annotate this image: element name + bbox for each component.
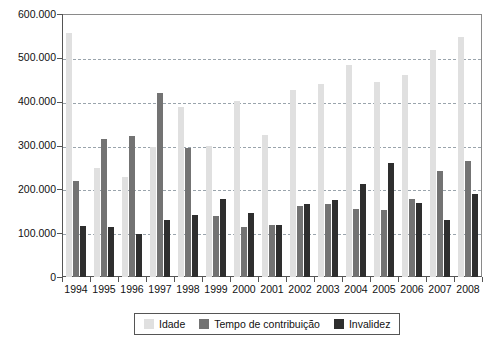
x-tick-mark [62, 277, 63, 282]
bar-group [258, 14, 286, 277]
bar-1994-idade [66, 33, 72, 277]
bar-1997-idade [150, 147, 156, 277]
bar-1995-invalidez [108, 227, 114, 277]
x-tick-label-1995: 1995 [90, 283, 118, 295]
bar-1995-idade [94, 168, 100, 277]
bar-2004-invalidez [360, 184, 366, 277]
x-tick-label-2003: 2003 [314, 283, 342, 295]
bar-group [90, 14, 118, 277]
bar-1999-idade [206, 146, 212, 277]
x-tick-label-1994: 1994 [62, 283, 90, 295]
bar-2003-idade [318, 84, 324, 277]
bar-2000-invalidez [248, 213, 254, 277]
bar-2006-tempo-de-contribui-o [409, 199, 415, 277]
bar-2005-tempo-de-contribui-o [381, 210, 387, 277]
x-tick-mark [342, 277, 343, 282]
legend-label: Tempo de contribuição [214, 319, 320, 330]
bar-group [174, 14, 202, 277]
x-tick-mark [90, 277, 91, 282]
bar-2006-idade [402, 75, 408, 277]
x-tick-mark [454, 277, 455, 282]
bar-2002-idade [290, 90, 296, 277]
legend-swatch-icon [144, 319, 154, 329]
legend-item: Invalidez [334, 319, 390, 330]
bar-2007-idade [430, 50, 436, 277]
x-tick-mark [314, 277, 315, 282]
x-tick-label-2001: 2001 [258, 283, 286, 295]
x-tick-mark [286, 277, 287, 282]
x-tick-mark [174, 277, 175, 282]
bar-1996-idade [122, 177, 128, 277]
bar-1995-tempo-de-contribui-o [101, 139, 107, 278]
legend-label: Idade [159, 319, 185, 330]
x-tick-mark [202, 277, 203, 282]
bar-group [146, 14, 174, 277]
y-tick-label: 100.000 [0, 228, 56, 239]
bar-2002-tempo-de-contribui-o [297, 206, 303, 277]
bar-group [286, 14, 314, 277]
y-tick-label: 500.000 [0, 52, 56, 63]
x-tick-mark [370, 277, 371, 282]
bar-1998-invalidez [192, 215, 198, 277]
x-tick-label-2007: 2007 [426, 283, 454, 295]
bar-2007-invalidez [444, 220, 450, 277]
bar-group [342, 14, 370, 277]
bar-1997-tempo-de-contribui-o [157, 93, 163, 277]
bar-1994-invalidez [80, 226, 86, 277]
bar-2001-tempo-de-contribui-o [269, 225, 275, 277]
legend-swatch-icon [334, 319, 344, 329]
x-tick-mark [230, 277, 231, 282]
y-tick-label: 200.000 [0, 184, 56, 195]
cropped-title-artifact [175, 0, 235, 4]
legend-swatch-icon [199, 319, 209, 329]
bar-2001-invalidez [276, 225, 282, 277]
legend-item: Idade [144, 319, 185, 330]
x-tick-label-2005: 2005 [370, 283, 398, 295]
bar-2002-invalidez [304, 204, 310, 277]
bar-2004-idade [346, 65, 352, 277]
y-tick-label: 0 [0, 272, 56, 283]
bar-2000-idade [234, 101, 240, 277]
x-tick-label-2000: 2000 [230, 283, 258, 295]
x-tick-label-2006: 2006 [398, 283, 426, 295]
legend-item: Tempo de contribuição [199, 319, 320, 330]
bar-1998-tempo-de-contribui-o [185, 148, 191, 277]
bar-2008-idade [458, 37, 464, 277]
x-tick-label-2008: 2008 [454, 283, 482, 295]
bar-1996-invalidez [136, 234, 142, 277]
x-tick-label-1999: 1999 [202, 283, 230, 295]
legend-label: Invalidez [349, 319, 390, 330]
bar-2001-idade [262, 135, 268, 277]
bar-group [398, 14, 426, 277]
bar-2004-tempo-de-contribui-o [353, 209, 359, 277]
x-tick-label-2004: 2004 [342, 283, 370, 295]
bar-2006-invalidez [416, 203, 422, 277]
x-tick-label-1998: 1998 [174, 283, 202, 295]
bars-layer [62, 14, 482, 277]
x-tick-mark [146, 277, 147, 282]
bar-2005-invalidez [388, 163, 394, 277]
x-tick-mark [398, 277, 399, 282]
y-tick-label: 400.000 [0, 96, 56, 107]
bar-group [118, 14, 146, 277]
bar-group [230, 14, 258, 277]
bar-2008-invalidez [472, 194, 478, 277]
bar-2000-tempo-de-contribui-o [241, 227, 247, 277]
bar-1998-idade [178, 107, 184, 278]
x-tick-label-2002: 2002 [286, 283, 314, 295]
bar-1999-invalidez [220, 199, 226, 277]
y-tick-label: 600.000 [0, 9, 56, 20]
x-tick-label-1996: 1996 [118, 283, 146, 295]
x-tick-mark [118, 277, 119, 282]
bar-1996-tempo-de-contribui-o [129, 136, 135, 277]
bar-2008-tempo-de-contribui-o [465, 161, 471, 277]
bar-1994-tempo-de-contribui-o [73, 181, 79, 277]
bar-group [370, 14, 398, 277]
bar-group [62, 14, 90, 277]
x-tick-label-1997: 1997 [146, 283, 174, 295]
y-tick-label: 300.000 [0, 140, 56, 151]
bar-chart: 0100.000200.000300.000400.000500.000600.… [0, 0, 495, 348]
x-tick-mark [258, 277, 259, 282]
bar-1997-invalidez [164, 220, 170, 277]
bar-group [202, 14, 230, 277]
